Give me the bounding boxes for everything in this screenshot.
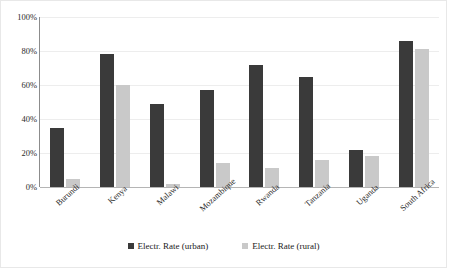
plot-inner <box>39 17 439 187</box>
legend-swatch-urban-icon <box>128 243 134 249</box>
bars-layer <box>40 17 439 187</box>
bar-group <box>190 17 240 187</box>
y-axis-tick: 0% <box>3 183 37 192</box>
x-axis-label-slot: Kenya <box>89 188 139 234</box>
bar-group <box>240 17 290 187</box>
x-axis-labels: BurundiKenyaMalawiMozambiqueRwandaTanzan… <box>39 188 439 234</box>
legend-item: Electr. Rate (urban) <box>128 241 209 251</box>
bar-group <box>40 17 90 187</box>
bar-urban <box>50 128 64 188</box>
bar-group <box>140 17 190 187</box>
bar-rural <box>116 85 130 187</box>
bar-urban <box>200 90 214 187</box>
bar-urban <box>349 150 363 187</box>
chart-container: 100%80%60%40%20%0% BurundiKenyaMalawiMoz… <box>0 0 447 268</box>
y-axis-tick: 60% <box>3 81 37 90</box>
chart-legend: Electr. Rate (urban)Electr. Rate (rural) <box>1 241 446 251</box>
bar-group <box>90 17 140 187</box>
x-axis-label-slot: Rwanda <box>239 188 289 234</box>
bar-urban <box>249 65 263 187</box>
bar-urban <box>399 41 413 187</box>
x-axis-label-slot: Burundi <box>39 188 89 234</box>
x-axis-label-slot: Mozambique <box>189 188 239 234</box>
x-axis-label-slot: Uganda <box>339 188 389 234</box>
bar-group <box>389 17 439 187</box>
y-axis-tick: 80% <box>3 47 37 56</box>
x-axis-label-slot: Malawi <box>139 188 189 234</box>
legend-swatch-rural-icon <box>242 243 248 249</box>
plot-area <box>39 17 439 187</box>
bar-urban <box>150 104 164 187</box>
y-axis-tick: 100% <box>3 13 37 22</box>
y-axis-tick: 20% <box>3 149 37 158</box>
legend-label: Electr. Rate (rural) <box>252 241 319 251</box>
y-axis-tick: 40% <box>3 115 37 124</box>
bar-group <box>289 17 339 187</box>
y-axis: 100%80%60%40%20%0% <box>1 17 37 187</box>
legend-label: Electr. Rate (urban) <box>138 241 209 251</box>
bar-urban <box>100 54 114 187</box>
x-axis-label-slot: South Africa <box>389 188 439 234</box>
legend-item: Electr. Rate (rural) <box>242 241 319 251</box>
bar-group <box>339 17 389 187</box>
bar-urban <box>299 77 313 188</box>
x-axis-label-slot: Tanzania <box>289 188 339 234</box>
bar-rural <box>415 49 429 187</box>
